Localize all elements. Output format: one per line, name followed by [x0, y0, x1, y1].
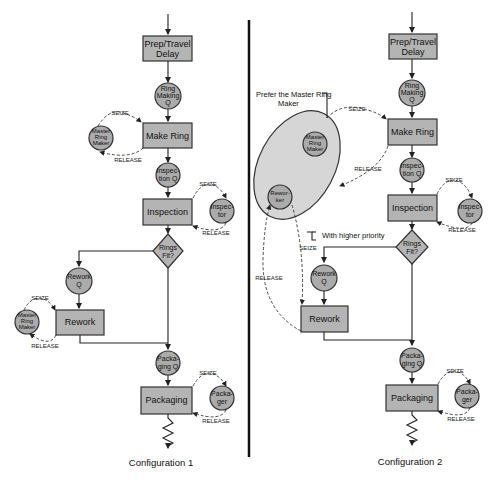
- decision-label-2: Fit?: [162, 252, 174, 259]
- packager-resource: Packa- ger: [455, 384, 479, 408]
- priority-note: With higher priority: [322, 231, 385, 240]
- insp-q-label-1: Inspec-: [401, 162, 425, 170]
- ring-q-label-3: Q: [165, 99, 171, 107]
- caption-config-2: Configuration 2: [378, 456, 442, 467]
- inspection-box: Inspection: [388, 195, 437, 221]
- inspector-label-1: Inspec-: [459, 203, 483, 211]
- prep-label-1: Prep/Travel: [144, 39, 190, 49]
- packaging-label: Packaging: [391, 393, 433, 403]
- release-label: RELEASE: [448, 227, 476, 233]
- inspector-label-1: Inspec-: [211, 203, 235, 211]
- insp-q-label-2: tion Q: [159, 175, 178, 183]
- inspection-queue: Inspec- tion Q: [400, 158, 424, 182]
- decision-label-1: Rings: [159, 244, 177, 252]
- rework-box: Rework: [301, 306, 348, 332]
- reworker-label-1: Rewor-: [270, 190, 289, 196]
- master-ring-maker-resource: Master Ring Maker: [303, 132, 327, 156]
- seize-label: SEIZE: [445, 177, 462, 183]
- rework-queue: Rework Q: [311, 265, 337, 291]
- inspector-label-2: tor: [218, 211, 227, 218]
- make-ring-label: Make Ring: [391, 127, 434, 137]
- packaging-label: Packaging: [145, 395, 187, 405]
- packaging-box: Packaging: [386, 385, 438, 411]
- rings-fit-decision: Rings Fit?: [153, 234, 183, 268]
- inspection-label: Inspection: [147, 207, 188, 217]
- decision-label-2: Fit?: [406, 248, 418, 255]
- inspector-label-2: tor: [466, 211, 475, 218]
- insp-q-label-2: tion Q: [403, 170, 422, 178]
- release-label: RELEASE: [114, 157, 142, 163]
- release-label: RELEASE: [202, 418, 230, 424]
- seize-label: SEIZE: [446, 368, 463, 374]
- release-label: RELEASE: [31, 343, 59, 349]
- caption-config-1: Configuration 1: [129, 457, 193, 468]
- prep-label-2: Delay: [401, 47, 425, 57]
- seize-label: SEIZE: [111, 110, 128, 116]
- inspector-resource: Inspec- tor: [458, 199, 482, 223]
- master-label-3: Maker: [93, 140, 110, 146]
- prep-label-1: Prep/Travel: [390, 37, 436, 47]
- inspection-label: Inspection: [392, 203, 433, 213]
- prep-label-2: Delay: [156, 49, 180, 59]
- ring-making-queue: Ring Making Q: [399, 80, 425, 106]
- seize-label: SEIZE: [199, 370, 216, 376]
- packaging-queue: Packa- ging Q: [156, 351, 180, 375]
- master-ring-maker-resource-2: Master Ring Maker: [15, 310, 39, 334]
- pack-q-label-2: ging Q: [158, 363, 179, 371]
- pack-q-label-1: Packa-: [157, 355, 179, 362]
- rework-q-label-2: Q: [76, 281, 82, 289]
- prep-travel-delay-box: Prep/Travel Delay: [389, 34, 437, 59]
- rework-q-label-1: Rework: [67, 273, 91, 280]
- ring-making-queue: Ring Making Q: [155, 83, 181, 109]
- seize-label: SEIZE: [299, 245, 316, 251]
- release-label: RELEASE: [255, 275, 283, 281]
- master-ring-maker-resource: Master Ring Maker: [89, 126, 113, 150]
- exit-zigzag: [163, 414, 173, 448]
- configuration-2: Prep/Travel Delay Ring Making Q Make Rin…: [236, 12, 482, 467]
- packager-label-1: Packa-: [456, 388, 478, 395]
- make-ring-box: Make Ring: [143, 123, 192, 148]
- pack-q-label-1: Packa-: [401, 352, 423, 359]
- packager-label-2: ger: [462, 396, 473, 404]
- insp-q-label-1: Inspec-: [157, 167, 181, 175]
- reworker-label-2: ker: [276, 197, 284, 203]
- master2-label-3: Maker: [19, 324, 36, 330]
- ring-q-label-3: Q: [409, 96, 415, 104]
- rework-box: Rework: [56, 310, 104, 335]
- pack-q-label-2: ging Q: [402, 360, 423, 368]
- rework-label: Rework: [309, 314, 340, 324]
- packager-label-2: ger: [217, 398, 228, 406]
- configuration-1: Prep/Travel Delay Ring Making Q Make Rin…: [15, 14, 234, 468]
- decision-label-1: Rings: [403, 240, 421, 248]
- exit-zigzag: [407, 411, 417, 445]
- rework-label: Rework: [65, 317, 96, 327]
- packager-label-1: Packa-: [211, 390, 233, 397]
- reworker-resource: Rewor- ker: [268, 185, 292, 209]
- packager-resource: Packa- ger: [210, 386, 234, 410]
- priority-callout-line: [307, 232, 316, 240]
- prefer-note-line-2: Maker: [278, 99, 299, 108]
- prep-travel-delay-box: Prep/Travel Delay: [143, 36, 192, 61]
- release-label: RELEASE: [354, 166, 382, 172]
- rings-fit-decision: Rings Fit?: [396, 230, 428, 264]
- rework-queue: Rework Q: [66, 268, 92, 294]
- resource-pool-ellipse: Master Ring Maker Rewor- ker: [236, 96, 358, 234]
- seize-label: SEIZE: [31, 295, 48, 301]
- release-label: RELEASE: [447, 416, 475, 422]
- make-ring-box: Make Ring: [388, 119, 437, 145]
- master-label-3: Maker: [307, 146, 324, 152]
- packaging-box: Packaging: [141, 387, 192, 414]
- rework-q-label-1: Rework: [312, 270, 336, 277]
- inspection-queue: Inspec- tion Q: [156, 163, 180, 187]
- packaging-queue: Packa- ging Q: [400, 348, 424, 372]
- rework-q-label-2: Q: [321, 278, 327, 286]
- diagram-root: Prep/Travel Delay Ring Making Q Make Rin…: [0, 0, 497, 481]
- release-label: RELEASE: [202, 230, 230, 236]
- make-ring-label: Make Ring: [146, 131, 189, 141]
- inspector-resource: Inspec- tor: [210, 199, 234, 223]
- seize-label: SEIZE: [199, 181, 216, 187]
- seize-label: SEIZE: [348, 106, 365, 112]
- inspection-box: Inspection: [143, 199, 192, 225]
- prefer-note-line-1: Prefer the Master Ring: [256, 90, 331, 99]
